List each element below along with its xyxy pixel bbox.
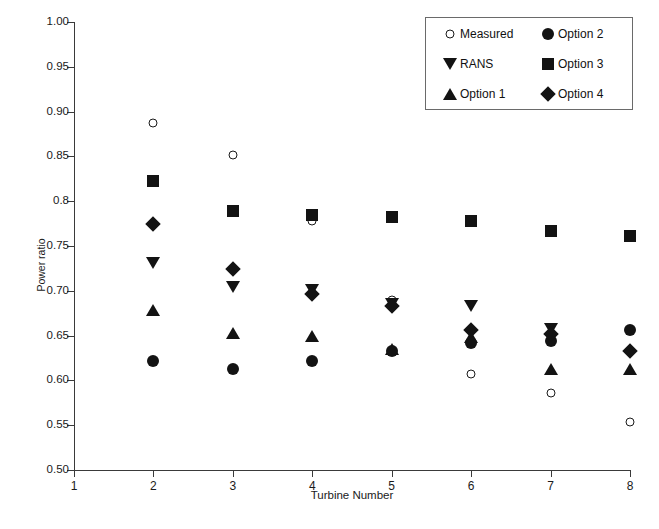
- legend-label: Measured: [460, 28, 513, 40]
- data-point: [467, 370, 476, 379]
- x-tick-label: 1: [71, 480, 78, 492]
- data-point: [623, 363, 637, 375]
- data-point: [146, 304, 160, 316]
- y-tick-label: 0.70: [47, 285, 69, 297]
- data-point: [386, 345, 398, 357]
- x-tick-label: 7: [547, 480, 554, 492]
- data-point: [465, 337, 477, 349]
- legend-marker-icon: [538, 57, 558, 71]
- y-axis-label: Power ratio: [35, 238, 47, 291]
- data-point: [622, 343, 638, 359]
- legend-column-left: MeasuredRANSOption 1: [440, 27, 513, 101]
- y-tick-label: 0.65: [47, 330, 69, 342]
- x-tick-label: 3: [230, 480, 237, 492]
- x-axis-line: [74, 470, 630, 471]
- x-tick-label: 8: [627, 480, 634, 492]
- data-point: [624, 230, 636, 242]
- x-tick: [551, 470, 552, 477]
- data-point: [147, 175, 159, 187]
- data-point: [544, 363, 558, 375]
- y-tick-label: 0.50: [47, 464, 69, 476]
- legend-label: Option 3: [558, 58, 603, 70]
- y-tick-label: 0.85: [47, 151, 69, 163]
- legend-entry-option-3: Option 3: [538, 57, 603, 71]
- x-tick-label: 2: [150, 480, 157, 492]
- x-tick: [392, 470, 393, 477]
- legend-column-right: Option 2Option 3Option 4: [538, 27, 603, 101]
- data-point: [626, 417, 635, 426]
- x-tick: [630, 470, 631, 477]
- legend-label: Option 2: [558, 28, 603, 40]
- scatter-chart-figure: Power ratio Turbine Number 0.500.550.600…: [0, 0, 659, 529]
- data-point: [146, 217, 162, 233]
- data-point: [147, 355, 159, 367]
- y-tick-label: 0.75: [47, 240, 69, 252]
- x-tick: [233, 470, 234, 477]
- legend-entry-measured: Measured: [440, 27, 513, 41]
- data-point: [306, 355, 318, 367]
- y-tick-label: 1.00: [47, 16, 69, 28]
- legend-label: RANS: [460, 58, 493, 70]
- x-tick: [74, 470, 75, 477]
- x-tick: [153, 470, 154, 477]
- x-tick: [312, 470, 313, 477]
- data-point: [228, 150, 237, 159]
- x-tick-label: 4: [309, 480, 316, 492]
- data-point: [465, 215, 477, 227]
- data-point: [149, 119, 158, 128]
- y-tick-label: 0.60: [47, 375, 69, 387]
- legend-label: Option 1: [460, 88, 505, 100]
- y-tick-label: 0.55: [47, 419, 69, 431]
- data-point: [227, 363, 239, 375]
- data-point: [624, 324, 636, 336]
- data-point: [386, 211, 398, 223]
- data-point: [146, 257, 160, 269]
- y-axis-line: [74, 22, 75, 470]
- legend-marker-icon: [538, 27, 558, 41]
- data-point: [306, 209, 318, 221]
- data-point: [464, 300, 478, 312]
- legend-label: Option 4: [558, 88, 603, 100]
- legend-marker-icon: [440, 27, 460, 41]
- data-point: [546, 388, 555, 397]
- legend-entry-option-2: Option 2: [538, 27, 603, 41]
- x-tick: [471, 470, 472, 477]
- data-point: [226, 327, 240, 339]
- legend-marker-icon: [440, 87, 460, 101]
- chart-legend: MeasuredRANSOption 1 Option 2Option 3Opt…: [425, 17, 633, 110]
- y-tick-label: 0.95: [47, 61, 69, 73]
- data-point: [545, 225, 557, 237]
- data-point: [305, 330, 319, 342]
- legend-entry-option-1: Option 1: [440, 87, 513, 101]
- x-tick-label: 5: [388, 480, 395, 492]
- y-tick-label: 0.8: [53, 195, 69, 207]
- data-point: [227, 205, 239, 217]
- legend-marker-icon: [538, 87, 558, 101]
- y-tick-label: 0.90: [47, 106, 69, 118]
- legend-entry-rans: RANS: [440, 57, 513, 71]
- legend-entry-option-4: Option 4: [538, 87, 603, 101]
- data-point: [226, 281, 240, 293]
- data-point: [225, 262, 241, 278]
- legend-marker-icon: [440, 57, 460, 71]
- x-tick-label: 6: [468, 480, 475, 492]
